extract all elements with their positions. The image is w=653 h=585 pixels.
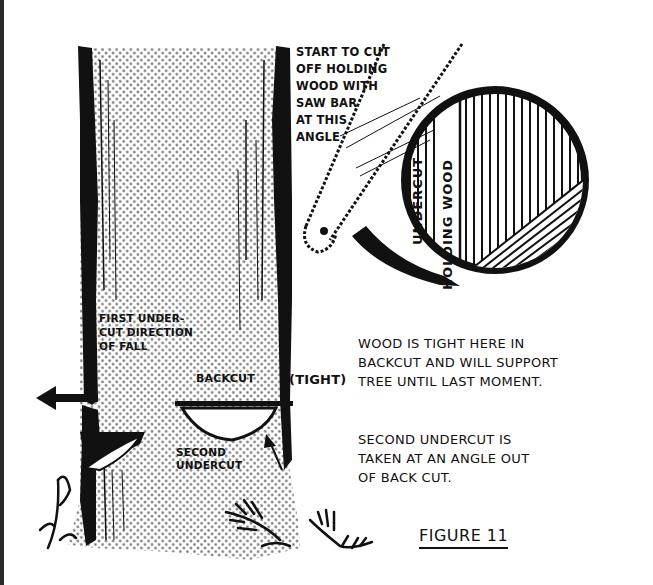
tight-label: (TIGHT) — [289, 372, 346, 388]
backcut-label: BACKCUT — [196, 372, 255, 386]
tight-wood-note: WOOD IS TIGHT HERE IN BACKCUT AND WILL S… — [358, 334, 648, 391]
second-undercut-label: SECOND UNDERCUT — [176, 446, 286, 472]
tree-trunk — [68, 46, 300, 560]
cross-section-holding-wood-label: HOLDING WOOD — [440, 159, 455, 290]
cross-section-undercut-label: UNDERCUT — [410, 157, 425, 245]
figure-caption: FIGURE 11 — [419, 526, 508, 549]
first-undercut-label: FIRST UNDER- CUT DIRECTION OF FALL — [99, 311, 229, 353]
second-undercut-note: SECOND UNDERCUT IS TAKEN AT AN ANGLE OUT… — [358, 430, 648, 487]
saw-angle-label: START TO CUT OFF HOLDING WOOD WITH SAW B… — [296, 44, 396, 146]
